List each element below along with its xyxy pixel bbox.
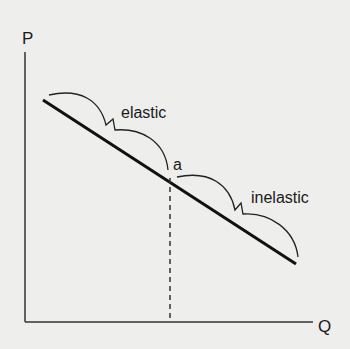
point-a-label: a	[173, 156, 182, 173]
elasticity-diagram: P Q elastic a inelastic	[0, 0, 350, 349]
inelastic-brace	[177, 175, 298, 257]
y-axis-label: P	[22, 29, 33, 48]
elastic-label: elastic	[121, 104, 166, 121]
x-axis-label: Q	[318, 317, 331, 336]
inelastic-label: inelastic	[251, 189, 309, 206]
